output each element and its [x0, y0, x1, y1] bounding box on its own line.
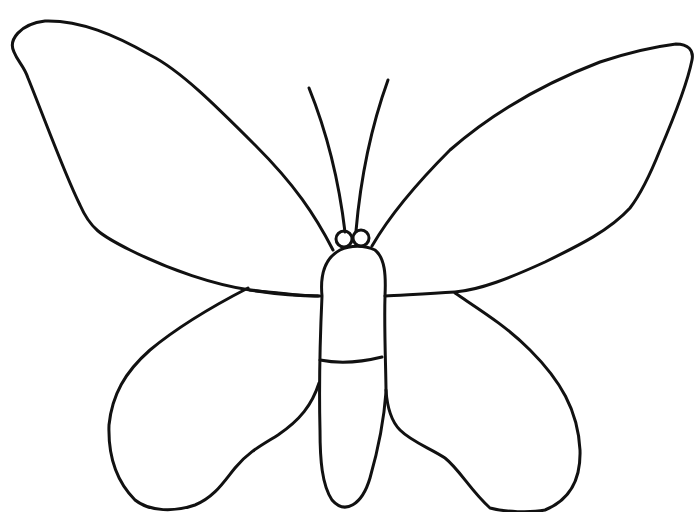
right-forewing — [372, 44, 692, 296]
left-forewing — [12, 21, 333, 296]
left-antenna — [309, 88, 345, 232]
left-wing-base — [250, 290, 320, 296]
right-eye — [353, 230, 369, 246]
body — [320, 246, 386, 507]
right-hindwing — [386, 293, 580, 512]
butterfly-drawing — [0, 0, 694, 512]
body-segment-line — [320, 357, 382, 362]
left-eye — [336, 231, 352, 247]
right-antenna — [356, 80, 388, 231]
left-hindwing — [109, 288, 319, 510]
